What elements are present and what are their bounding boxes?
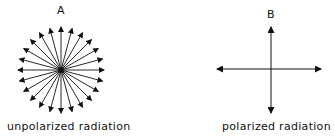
polarized-arrows-icon	[0, 0, 334, 139]
panel-b-caption: polarized radiation	[222, 120, 331, 133]
